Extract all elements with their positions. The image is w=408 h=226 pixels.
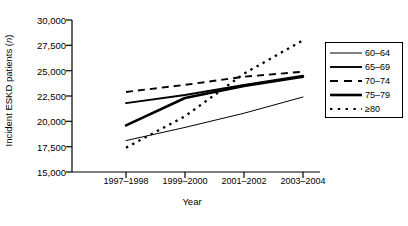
legend-label: 70–74	[365, 76, 390, 86]
legend-label: 60–64	[365, 48, 390, 58]
legend-label: ≥80	[365, 104, 380, 114]
chart-figure: Incident ESKD patients (n) 15,000 17,500…	[0, 0, 408, 226]
legend-item-65-69: 65–69	[326, 60, 402, 74]
y-axis-ticks	[66, 20, 72, 172]
series-line--80	[126, 40, 303, 147]
legend-swatch-solid-medium-icon	[329, 62, 363, 72]
chart-legend: 60–64 65–69 70–74 75–79 ≥80	[325, 42, 403, 118]
legend-item-70-74: 70–74	[326, 74, 402, 88]
x-axis-ticks	[126, 172, 303, 178]
legend-item-75-79: 75–79	[326, 88, 402, 102]
legend-swatch-dotted-icon	[329, 104, 363, 114]
legend-swatch-dashed-icon	[329, 76, 363, 86]
legend-item-80-plus: ≥80	[326, 102, 402, 116]
legend-swatch-solid-thick-icon	[329, 90, 363, 100]
legend-swatch-solid-thin-icon	[329, 48, 363, 58]
series-layer	[126, 40, 303, 147]
series-line-75-79	[126, 77, 303, 126]
legend-label: 65–69	[365, 62, 390, 72]
legend-label: 75–79	[365, 90, 390, 100]
legend-item-60-64: 60–64	[326, 46, 402, 60]
